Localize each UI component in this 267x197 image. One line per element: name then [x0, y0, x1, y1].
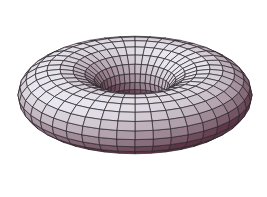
mesh-face [118, 112, 135, 122]
mesh-face [135, 146, 153, 151]
mesh-face [135, 121, 153, 131]
torus-render [0, 0, 267, 197]
mesh-face [135, 74, 140, 83]
mesh-face [99, 119, 117, 130]
mesh-face [117, 121, 135, 131]
mesh-face [152, 119, 170, 130]
mesh-face [117, 130, 135, 139]
mesh-face [130, 82, 135, 89]
mesh-face [135, 139, 153, 147]
mesh-face [135, 112, 152, 122]
mesh-face [117, 146, 135, 151]
torus-mesh-graphic [0, 0, 267, 197]
mesh-face [121, 98, 135, 105]
mesh-face [117, 139, 135, 147]
mesh-face [130, 74, 135, 83]
mesh-face [135, 104, 151, 113]
mesh-face [135, 130, 153, 139]
mesh-face [135, 82, 140, 89]
mesh-face [119, 104, 135, 113]
mesh-face [135, 98, 149, 105]
